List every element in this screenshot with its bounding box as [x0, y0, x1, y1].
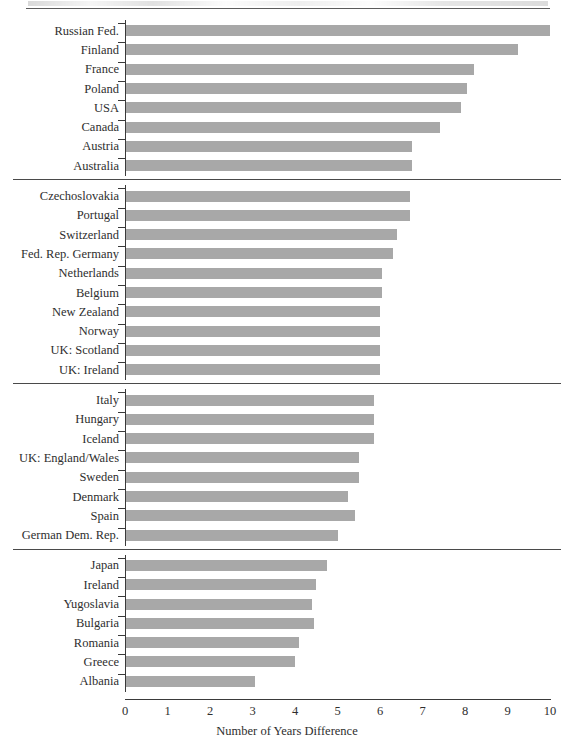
x-tick-label: 2 [195, 704, 225, 719]
bar: 5.85 [125, 433, 374, 444]
bar: 6.75 [125, 141, 412, 152]
bar: 9.25 [125, 44, 518, 55]
bar-track: 6 [125, 322, 565, 341]
category-label: UK: Ireland [0, 363, 125, 377]
plot-area: Russian Fed.10Finland9.25France8.2Poland… [0, 16, 574, 656]
chart-row: Canada7.4 [0, 118, 574, 137]
bar: 7.4 [125, 122, 440, 133]
category-label: UK: Scotland [0, 343, 125, 357]
bar: 6 [125, 345, 380, 356]
bar: 4.75 [125, 560, 327, 571]
bar-track: 6.05 [125, 264, 565, 283]
bar: 8.2 [125, 64, 474, 75]
bar-track: 5.85 [125, 390, 565, 409]
category-label: France [0, 62, 125, 76]
bar: 3.05 [125, 676, 255, 687]
chart-row: Australia6.75 [0, 156, 574, 175]
bar-track: 8.05 [125, 79, 565, 98]
chart-row: Sweden5.5 [0, 468, 574, 487]
category-label: Sweden [0, 470, 125, 484]
header-rule [26, 8, 550, 9]
chart-row: Japan4.75 [0, 556, 574, 575]
bar-track: 6.3 [125, 244, 565, 263]
category-label: Italy [0, 393, 125, 407]
category-label: German Dem. Rep. [0, 528, 125, 542]
chart-row: Belgium6.05 [0, 283, 574, 302]
bar: 6 [125, 306, 380, 317]
chart-row: Bulgaria4.45 [0, 614, 574, 633]
bar: 5.5 [125, 452, 359, 463]
bar: 4.45 [125, 618, 314, 629]
category-label: Albania [0, 674, 125, 688]
bar: 10 [125, 25, 550, 36]
category-label: Ireland [0, 578, 125, 592]
category-label: Spain [0, 509, 125, 523]
bar: 6.75 [125, 160, 412, 171]
category-label: Denmark [0, 490, 125, 504]
bar: 6 [125, 364, 380, 375]
bar-track: 5.25 [125, 487, 565, 506]
chart-row: Denmark5.25 [0, 487, 574, 506]
category-label: USA [0, 101, 125, 115]
bar: 5 [125, 530, 338, 541]
bar-track: 5 [125, 526, 565, 545]
category-label: Iceland [0, 432, 125, 446]
bar: 8.05 [125, 83, 467, 94]
bar: 6.4 [125, 229, 397, 240]
chart-row: Finland9.25 [0, 40, 574, 59]
chart-row: USA7.9 [0, 98, 574, 117]
category-label: Poland [0, 82, 125, 96]
bar-track: 6.7 [125, 206, 565, 225]
bar: 6 [125, 326, 380, 337]
bar: 4.4 [125, 599, 312, 610]
bar-track: 5.4 [125, 506, 565, 525]
chart-row: Czechoslovakia6.7 [0, 186, 574, 205]
bar: 5.4 [125, 510, 355, 521]
x-tick-label: 3 [238, 704, 268, 719]
bar-track: 4.1 [125, 633, 565, 652]
chart-row: Iceland5.85 [0, 429, 574, 448]
chart-row: Switzerland6.4 [0, 225, 574, 244]
chart-row: Norway6 [0, 322, 574, 341]
category-label: Austria [0, 139, 125, 153]
chart-row: Yugoslavia4.4 [0, 594, 574, 613]
bar: 7.9 [125, 102, 461, 113]
chart-row: France8.2 [0, 60, 574, 79]
category-label: Australia [0, 159, 125, 173]
chart-row: Italy5.85 [0, 390, 574, 409]
group-divider [13, 179, 561, 180]
bar-track: 6.4 [125, 225, 565, 244]
chart-row: UK: England/Wales5.5 [0, 448, 574, 467]
bar-track: 5.5 [125, 468, 565, 487]
category-label: Portugal [0, 208, 125, 222]
category-label: UK: England/Wales [0, 451, 125, 465]
bar-track: 4.4 [125, 594, 565, 613]
x-axis-title: Number of Years Difference [0, 724, 574, 739]
category-label: Finland [0, 43, 125, 57]
x-tick-label: 10 [535, 704, 565, 719]
group-divider [13, 549, 561, 550]
bar-track: 6 [125, 341, 565, 360]
y-axis-line [125, 555, 126, 692]
category-label: Japan [0, 558, 125, 572]
bar: 6.7 [125, 210, 410, 221]
bar: 6.7 [125, 191, 410, 202]
chart-row: UK: Ireland6 [0, 360, 574, 379]
bar-track: 4.5 [125, 575, 565, 594]
chart-row: New Zealand6 [0, 302, 574, 321]
y-axis-line [125, 389, 126, 545]
bar-track: 6 [125, 360, 565, 379]
x-tick-label: 8 [450, 704, 480, 719]
bar: 5.85 [125, 395, 374, 406]
bar-track: 6 [125, 302, 565, 321]
x-tick-label: 1 [153, 704, 183, 719]
bar-track: 7.4 [125, 118, 565, 137]
bar: 6.3 [125, 248, 393, 259]
bar: 4.1 [125, 637, 299, 648]
bar: 4 [125, 656, 295, 667]
chart-row: Greece4 [0, 652, 574, 671]
chart-row: Spain5.4 [0, 506, 574, 525]
category-label: Hungary [0, 412, 125, 426]
bar-track: 4.45 [125, 614, 565, 633]
bar: 6.05 [125, 287, 382, 298]
